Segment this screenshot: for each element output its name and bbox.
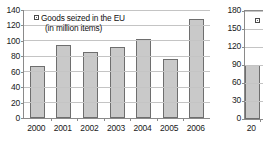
- chart-legend: Goods seized in the EU (in million items…: [34, 13, 125, 33]
- gridline: [24, 102, 210, 103]
- x-tick-mark: [130, 118, 131, 121]
- x-tick-mark: [104, 118, 105, 121]
- gridline: [245, 11, 263, 12]
- bar: [163, 59, 178, 118]
- gridline: [245, 29, 263, 30]
- bar: [189, 19, 204, 118]
- y-tick-mark: [242, 65, 245, 66]
- y-tick-mark: [242, 119, 245, 120]
- chart-legend-secondary: [255, 16, 260, 23]
- gridline: [24, 87, 210, 88]
- x-axis-tick-label: 2006: [187, 124, 205, 133]
- y-axis-tick-label: 150: [227, 24, 241, 33]
- y-axis-tick-label: 0: [15, 114, 20, 123]
- y-axis-tick-label: 90: [232, 60, 241, 69]
- x-tick-mark: [157, 118, 158, 121]
- gridline: [24, 10, 210, 11]
- x-axis-tick-label: 2004: [134, 124, 152, 133]
- bar: [245, 65, 260, 119]
- gridline: [24, 40, 210, 41]
- y-tick-mark: [21, 87, 24, 88]
- gridline: [24, 71, 210, 72]
- y-axis-tick-label: 120: [227, 42, 241, 51]
- gridline: [245, 65, 263, 66]
- x-axis-tick-label: 2005: [160, 124, 178, 133]
- y-tick-mark: [21, 10, 24, 11]
- x-axis-tick-label: 20: [247, 124, 256, 133]
- y-tick-mark: [21, 72, 24, 73]
- legend-swatch-icon: [34, 15, 39, 20]
- gridline: [24, 56, 210, 57]
- x-axis-tick-label: 2001: [54, 124, 72, 133]
- y-tick-mark: [21, 103, 24, 104]
- chart-screenshot: 020406080100120140 200020012002200320042…: [0, 0, 263, 142]
- y-tick-mark: [21, 118, 24, 119]
- plot-area-secondary: [244, 10, 263, 120]
- y-tick-mark: [21, 41, 24, 42]
- y-tick-mark: [21, 56, 24, 57]
- y-axis-tick-label: 60: [11, 67, 20, 76]
- y-axis-tick-label: 0: [236, 114, 241, 123]
- legend-label: Goods seized in the EU (in million items…: [41, 13, 125, 33]
- y-tick-mark: [242, 83, 245, 84]
- bar: [136, 39, 151, 118]
- x-axis-tick-label: 2000: [27, 124, 45, 133]
- y-tick-mark: [242, 47, 245, 48]
- y-tick-mark: [242, 29, 245, 30]
- y-axis-tick-label: 100: [6, 37, 20, 46]
- y-tick-mark: [21, 25, 24, 26]
- gridline: [245, 101, 263, 102]
- y-axis-tick-label: 140: [6, 6, 20, 15]
- bar-chart-goods-seized-eu: 020406080100120140 200020012002200320042…: [0, 0, 212, 142]
- gridline: [245, 83, 263, 84]
- y-tick-mark: [242, 11, 245, 12]
- y-tick-mark: [242, 101, 245, 102]
- x-tick-mark: [77, 118, 78, 121]
- x-axis-tick-label: 2003: [107, 124, 125, 133]
- y-axis-tick-label: 120: [6, 21, 20, 30]
- y-axis-tick-label: 180: [227, 6, 241, 15]
- gridline: [245, 47, 263, 48]
- y-axis-tick-label: 60: [232, 78, 241, 87]
- x-tick-mark: [183, 118, 184, 121]
- legend-label-line1: Goods seized in the EU: [41, 13, 125, 23]
- legend-swatch-icon: [255, 18, 260, 23]
- x-tick-mark: [260, 119, 261, 122]
- legend-label-line2: (in million items): [41, 23, 125, 33]
- bar: [30, 66, 45, 118]
- bar-chart-secondary-cropped: 0306090120150180 20: [213, 0, 263, 142]
- y-axis-tick-label: 20: [11, 98, 20, 107]
- y-axis-tick-label: 30: [232, 96, 241, 105]
- x-axis-tick-label: 2002: [80, 124, 98, 133]
- bar: [83, 52, 98, 118]
- y-axis-tick-label: 40: [11, 83, 20, 92]
- bar: [110, 47, 125, 118]
- y-axis-tick-label: 80: [11, 52, 20, 61]
- x-tick-mark: [51, 118, 52, 121]
